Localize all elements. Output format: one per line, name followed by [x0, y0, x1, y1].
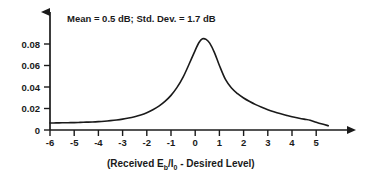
x-axis-title-suffix: - Desired Level) [177, 158, 254, 169]
x-tick-label-5: 5 [314, 137, 320, 148]
x-axis-title: (Received Eb/I0 - Desired Level) [107, 158, 255, 171]
y-tick-marks [44, 44, 50, 130]
x-axis-title-prefix: (Received E [107, 158, 164, 169]
y-tick-label-006: 0.06 [22, 60, 41, 71]
chart-annotation: Mean = 0.5 dB; Std. Dev. = 1.7 dB [67, 13, 216, 24]
y-tick-label-008: 0.08 [22, 39, 41, 50]
density-curve [50, 39, 328, 126]
x-tick-label-0: 0 [193, 137, 198, 148]
chart-figure: 0 0.02 0.04 0.06 0.08 -6 -5 -4 -3 -2 -1 … [0, 0, 371, 175]
x-tick-label--6: -6 [46, 137, 54, 148]
svg-text:(Received Eb/I0 - Desired Leve: (Received Eb/I0 - Desired Level) [107, 158, 255, 171]
x-tick-label-2: 2 [241, 137, 246, 148]
x-tick-label--1: -1 [167, 137, 176, 148]
chart-svg: 0 0.02 0.04 0.06 0.08 -6 -5 -4 -3 -2 -1 … [0, 0, 371, 175]
x-tick-label--4: -4 [94, 137, 103, 148]
x-tick-label--5: -5 [70, 137, 79, 148]
x-tick-label-3: 3 [265, 137, 270, 148]
y-tick-label-002: 0.02 [22, 103, 41, 114]
x-tick-marks [50, 130, 316, 136]
x-tick-label--2: -2 [143, 137, 151, 148]
x-tick-label--3: -3 [118, 137, 126, 148]
x-tick-label-4: 4 [289, 137, 295, 148]
y-tick-label-0: 0 [35, 125, 40, 136]
x-tick-label-1: 1 [217, 137, 223, 148]
y-tick-label-004: 0.04 [22, 82, 41, 93]
